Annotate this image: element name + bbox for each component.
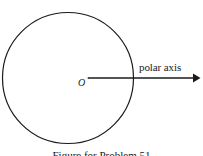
figure-canvas <box>0 0 203 156</box>
origin-point <box>87 77 88 78</box>
polar-coordinate-figure: O polar axis Figure for Problem 51 <box>0 0 203 156</box>
origin-label: O <box>78 78 85 88</box>
figure-caption: Figure for Problem 51 <box>0 149 203 156</box>
polar-axis-label: polar axis <box>139 62 181 73</box>
arrowhead-icon <box>193 74 201 83</box>
